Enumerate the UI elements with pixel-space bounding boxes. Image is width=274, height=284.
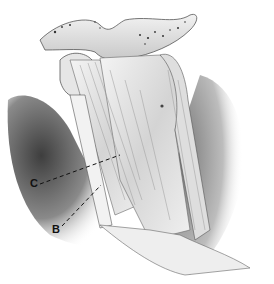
ligament-drawing xyxy=(0,0,274,284)
label-b: B xyxy=(52,224,60,235)
anatomical-illustration: C B xyxy=(0,0,274,284)
label-c: C xyxy=(30,178,38,189)
